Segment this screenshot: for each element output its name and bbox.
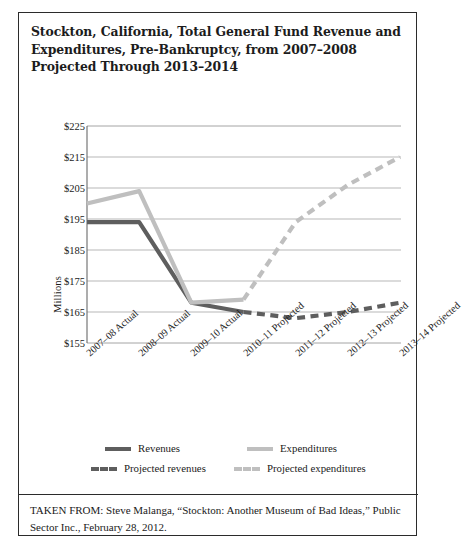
y-tick-label: $155 — [35, 338, 85, 349]
legend-item-projected-revenues: Projected revenues — [91, 462, 206, 474]
y-tick-label: $185 — [35, 245, 85, 256]
series-line — [87, 222, 244, 312]
y-tick-label: $215 — [35, 152, 85, 163]
figure-title: Stockton, California, Total General Fund… — [31, 23, 403, 76]
y-tick-label: $165 — [35, 307, 85, 318]
data-series — [87, 157, 400, 318]
legend-item-expenditures: Expenditures — [247, 442, 337, 454]
legend-label: Projected expenditures — [267, 462, 366, 474]
legend-item-revenues: Revenues — [105, 442, 180, 454]
chart-plot-area: Millions $225 $215 $205 $195 $185 $175 $… — [19, 101, 418, 441]
series-line — [87, 191, 244, 303]
legend-swatch-projected-revenues — [91, 467, 117, 471]
y-axis-tick-labels: $225 $215 $205 $195 $185 $175 $165 $155 — [33, 101, 85, 441]
figure-frame: Stockton, California, Total General Fund… — [18, 12, 417, 536]
series-line — [244, 157, 401, 300]
source-divider — [19, 494, 418, 495]
legend-item-projected-expenditures: Projected expenditures — [234, 462, 366, 474]
legend-swatch-projected-expenditures — [234, 467, 260, 471]
y-tick-label: $175 — [35, 276, 85, 287]
legend-swatch-revenues — [105, 447, 131, 451]
legend-swatch-expenditures — [247, 447, 273, 451]
legend-label: Projected revenues — [124, 462, 206, 474]
legend-label: Expenditures — [280, 442, 337, 454]
source-caption: TAKEN FROM: Steve Malanga, “Stockton: An… — [30, 502, 406, 535]
series-line — [244, 303, 401, 319]
legend-label: Revenues — [138, 442, 180, 454]
chart-legend: Revenues Expenditures Projected revenues… — [19, 438, 418, 486]
y-tick-label: $195 — [35, 214, 85, 225]
y-tick-label: $205 — [35, 183, 85, 194]
y-tick-label: $225 — [35, 121, 85, 132]
